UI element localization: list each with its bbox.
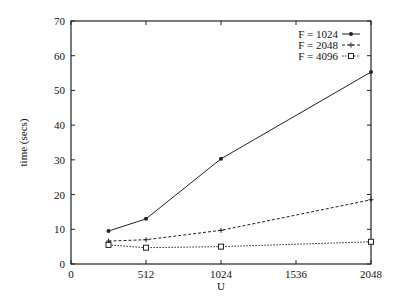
point-marker [144,237,149,242]
y-tick-label: 10 [54,223,66,235]
series-f-1024 [107,70,374,233]
legend-label: F = 4096 [298,50,338,62]
y-tick-label: 60 [54,50,66,62]
point-marker [219,157,223,161]
point-marker [349,32,353,36]
line-chart: 0102030405060700512102415362048Utime (se… [0,0,399,303]
y-axis-title: time (secs) [17,118,30,166]
point-marker [349,43,354,48]
y-tick-label: 40 [54,119,66,131]
point-marker [219,244,224,249]
point-marker [144,245,149,250]
point-marker [369,197,374,202]
x-tick-label: 1536 [285,268,308,280]
point-marker [219,228,224,233]
x-tick-label: 2048 [360,268,383,280]
point-marker [107,229,111,233]
legend: F = 1024F = 2048F = 4096 [298,28,360,62]
point-marker [349,54,354,59]
y-tick-label: 50 [54,84,66,96]
point-marker [144,217,148,221]
point-marker [369,239,374,244]
point-marker [369,70,373,74]
series-line [109,200,372,241]
y-tick-label: 0 [60,258,66,270]
y-tick-label: 30 [54,154,66,166]
series-line [109,72,372,231]
x-axis-title: U [217,280,225,292]
x-tick-label: 1024 [210,268,233,280]
point-marker [106,242,111,247]
x-tick-label: 0 [68,268,74,280]
y-tick-label: 70 [54,15,66,27]
x-tick-label: 512 [138,268,155,280]
y-tick-label: 20 [54,189,66,201]
